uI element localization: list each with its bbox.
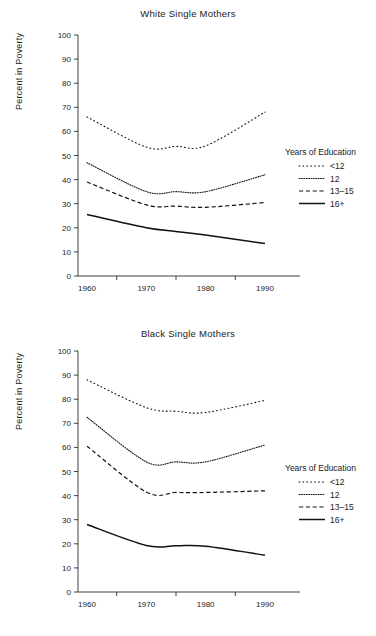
y-tick-label: 90 bbox=[62, 55, 71, 64]
y-tick-label: 20 bbox=[62, 224, 71, 233]
figure-root: White Single Mothers Percent in Poverty … bbox=[0, 0, 376, 636]
y-tick-label: 70 bbox=[62, 103, 71, 112]
x-tick-label: 1970 bbox=[137, 600, 155, 609]
y-tick-label: 10 bbox=[62, 248, 71, 257]
y-tick-label: 90 bbox=[62, 371, 71, 380]
plot-svg: 01020304050607080901001960197019801990Ye… bbox=[0, 320, 376, 636]
legend-title: Years of Education bbox=[285, 463, 356, 473]
y-tick-label: 80 bbox=[62, 395, 71, 404]
y-tick-label: 20 bbox=[62, 540, 71, 549]
y-tick-label: 100 bbox=[58, 31, 72, 40]
y-tick-label: 0 bbox=[67, 272, 72, 281]
series-line-13-15 bbox=[87, 182, 265, 207]
chart-panel-white-single-mothers: White Single Mothers Percent in Poverty … bbox=[0, 0, 376, 320]
legend-label: 16+ bbox=[330, 199, 344, 209]
series-line-12 bbox=[87, 163, 265, 194]
y-tick-label: 0 bbox=[67, 588, 72, 597]
x-tick-label: 1960 bbox=[78, 600, 96, 609]
series-line-12 bbox=[87, 417, 265, 465]
y-tick-label: 50 bbox=[62, 468, 71, 477]
y-tick-label: 50 bbox=[62, 152, 71, 161]
y-tick-label: 60 bbox=[62, 127, 71, 136]
chart-panel-black-single-mothers: Black Single Mothers Percent in Poverty … bbox=[0, 320, 376, 636]
x-tick-label: 1990 bbox=[256, 600, 274, 609]
x-tick-label: 1970 bbox=[137, 284, 155, 293]
series-line--12 bbox=[87, 380, 265, 413]
y-tick-label: 10 bbox=[62, 564, 71, 573]
plot-svg: 01020304050607080901001960197019801990Ye… bbox=[0, 0, 376, 320]
legend-label: 13–15 bbox=[330, 502, 354, 512]
x-tick-label: 1980 bbox=[197, 284, 215, 293]
y-tick-label: 40 bbox=[62, 176, 71, 185]
plot-area: 01020304050607080901001960197019801990Ye… bbox=[0, 320, 376, 636]
x-tick-label: 1980 bbox=[197, 600, 215, 609]
x-tick-label: 1960 bbox=[78, 284, 96, 293]
legend-label: <12 bbox=[330, 477, 345, 487]
series-line--12 bbox=[87, 112, 265, 149]
legend-label: 12 bbox=[330, 174, 340, 184]
x-tick-label: 1990 bbox=[256, 284, 274, 293]
y-tick-label: 100 bbox=[58, 347, 72, 356]
y-tick-label: 70 bbox=[62, 419, 71, 428]
y-tick-label: 60 bbox=[62, 443, 71, 452]
legend-title: Years of Education bbox=[285, 147, 356, 157]
series-line-16+ bbox=[87, 525, 265, 556]
y-tick-label: 30 bbox=[62, 516, 71, 525]
y-tick-label: 30 bbox=[62, 200, 71, 209]
y-tick-label: 80 bbox=[62, 79, 71, 88]
plot-area: 01020304050607080901001960197019801990Ye… bbox=[0, 0, 376, 320]
y-tick-label: 40 bbox=[62, 492, 71, 501]
legend-label: 16+ bbox=[330, 515, 344, 525]
legend-label: <12 bbox=[330, 161, 345, 171]
legend-label: 13–15 bbox=[330, 186, 354, 196]
series-line-16+ bbox=[87, 215, 265, 244]
legend-label: 12 bbox=[330, 490, 340, 500]
